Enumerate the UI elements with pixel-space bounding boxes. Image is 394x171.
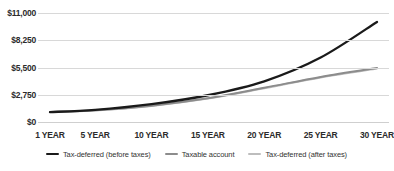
legend-label: Tax-deferred (after taxes) <box>265 150 347 159</box>
legend-item[interactable]: Tax-deferred (before taxes) <box>46 150 151 159</box>
x-axis-tick-label: 1 YEAR <box>35 130 64 140</box>
y-axis-tick-label: $8,250 <box>11 35 36 45</box>
legend-line-swatch-icon <box>46 153 59 156</box>
legend-item[interactable]: Tax-deferred (after taxes) <box>248 150 347 159</box>
y-axis-tick-label: $11,000 <box>7 8 36 18</box>
gridline <box>38 40 389 41</box>
legend-item[interactable]: Taxable account <box>165 150 235 159</box>
gridline <box>38 122 389 123</box>
legend-line-swatch-icon <box>248 153 261 155</box>
y-axis-tick-label: $0 <box>27 117 36 127</box>
x-axis-tick-label: 15 YEAR <box>191 130 225 140</box>
y-axis-labels: $0$2,750$5,500$8,250$11,000 <box>0 0 38 128</box>
y-axis-tick-label: $2,750 <box>11 90 36 100</box>
chart-legend: Tax-deferred (before taxes)Taxable accou… <box>0 146 393 162</box>
gridline <box>38 13 389 14</box>
gridline <box>38 68 389 69</box>
x-axis-tick-label: 5 YEAR <box>80 130 109 140</box>
legend-line-swatch-icon <box>165 153 178 155</box>
series-line <box>50 68 377 112</box>
plot-area <box>38 0 389 128</box>
gridline <box>38 95 389 96</box>
x-axis-tick-label: 25 YEAR <box>304 130 338 140</box>
y-axis-tick-label: $5,500 <box>11 63 36 73</box>
x-axis-labels: 1 YEAR5 YEAR10 YEAR15 YEAR20 YEAR25 YEAR… <box>38 128 389 144</box>
legend-label: Tax-deferred (before taxes) <box>63 150 151 159</box>
x-axis-tick-label: 10 YEAR <box>135 130 169 140</box>
series-lines <box>38 0 389 128</box>
x-axis-tick-label: 30 YEAR <box>360 130 394 140</box>
x-axis-tick-label: 20 YEAR <box>247 130 281 140</box>
legend-label: Taxable account <box>182 150 235 159</box>
